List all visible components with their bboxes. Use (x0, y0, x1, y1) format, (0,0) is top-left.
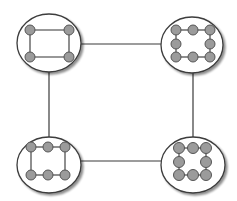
node-circle (64, 25, 74, 35)
cluster-top-right (161, 17, 223, 73)
node-circle (26, 170, 36, 180)
node-circle (43, 170, 53, 180)
node-circle (205, 25, 215, 35)
node-circle (205, 39, 215, 49)
node-circle (60, 142, 70, 152)
node-circle (43, 142, 53, 152)
node-circle (174, 170, 185, 181)
node-circle (60, 170, 70, 180)
cluster-boundary (17, 14, 81, 72)
cluster-bottom-right (161, 137, 225, 193)
node-circle (25, 52, 35, 62)
node-circle (188, 52, 198, 62)
cluster-network-diagram (0, 0, 237, 201)
node-circle (174, 143, 185, 154)
node-circle (171, 52, 181, 62)
node-circle (201, 157, 212, 168)
node-circle (64, 52, 74, 62)
node-circle (171, 25, 181, 35)
node-circle (25, 25, 35, 35)
node-circle (188, 143, 199, 154)
node-circle (201, 143, 212, 154)
cluster-top-left (17, 14, 81, 72)
node-circle (174, 157, 185, 168)
node-circle (201, 170, 212, 181)
node-circle (26, 142, 36, 152)
node-circle (188, 170, 199, 181)
cluster-bottom-left (17, 137, 81, 193)
clusters (17, 14, 225, 193)
diagram-canvas (0, 0, 237, 201)
node-circle (188, 25, 198, 35)
node-circle (171, 39, 181, 49)
node-circle (205, 52, 215, 62)
